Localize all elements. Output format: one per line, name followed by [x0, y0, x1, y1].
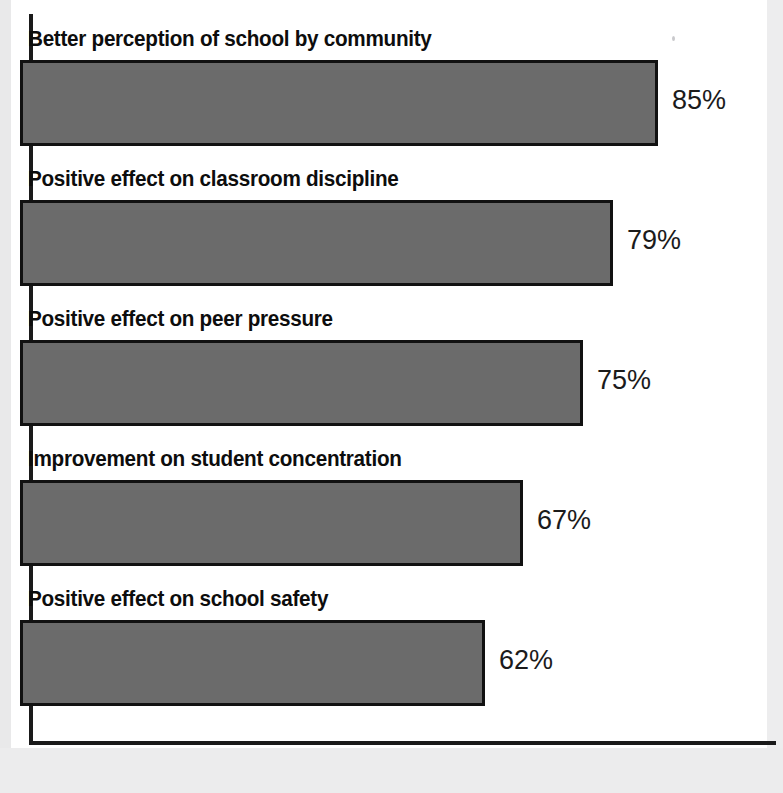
bar-category-label: Better perception of school by community — [28, 26, 432, 52]
bar-value-label: 62% — [499, 645, 553, 676]
scan-speck — [672, 36, 675, 41]
bar-category-label: Improvement on student concentration — [28, 446, 402, 472]
scan-margin-right — [767, 0, 783, 793]
bar-rect — [20, 480, 523, 566]
chart-page: Better perception of school by community… — [0, 0, 783, 793]
bar-rect — [20, 340, 583, 426]
bar-rect — [20, 200, 613, 286]
bar-value-label: 79% — [627, 225, 681, 256]
bar-category-label: Positive effect on classroom discipline — [28, 166, 399, 192]
bar-value-label: 75% — [597, 365, 651, 396]
bar-value-label: 67% — [537, 505, 591, 536]
scan-margin-bottom — [0, 748, 783, 793]
scan-margin-left — [0, 0, 11, 793]
x-axis-line — [29, 741, 776, 745]
bar-category-label: Positive effect on peer pressure — [28, 306, 333, 332]
bar-category-label: Positive effect on school safety — [28, 586, 328, 612]
bar-rect — [20, 60, 658, 146]
bar-rect — [20, 620, 485, 706]
bar-value-label: 85% — [672, 85, 726, 116]
